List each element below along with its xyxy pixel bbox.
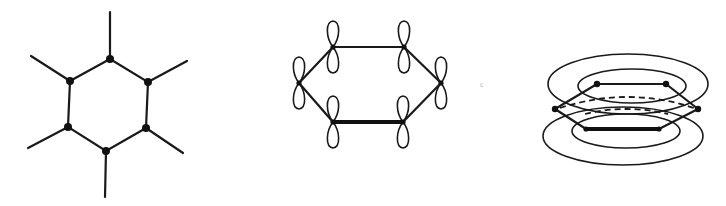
p-orbital-lobes <box>293 21 446 148</box>
benzene-figure: c <box>0 0 726 206</box>
ring-bonds <box>299 47 441 122</box>
carbon-atoms <box>64 55 152 155</box>
panel-pi-cloud <box>543 54 708 165</box>
substituent-bonds <box>28 12 187 197</box>
ring-bonds <box>68 59 148 151</box>
panel-sigma-framework <box>28 12 187 197</box>
panel-p-orbitals: c <box>293 21 484 148</box>
stray-mark: c <box>480 79 484 89</box>
carbon-atoms <box>296 44 443 124</box>
